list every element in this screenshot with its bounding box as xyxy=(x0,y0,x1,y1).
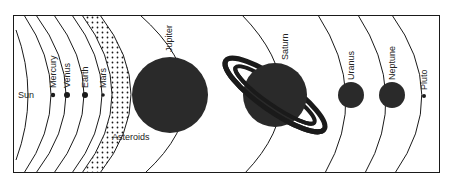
planet-earth xyxy=(82,92,88,98)
label-venus: Venus xyxy=(62,62,72,88)
label-pluto: Pluto xyxy=(419,69,429,90)
label-asteroids: Asteroids xyxy=(112,132,150,142)
diagram-frame xyxy=(14,16,440,173)
planet-uranus xyxy=(338,82,364,108)
label-uranus: Uranus xyxy=(346,50,356,80)
planet-pluto xyxy=(422,94,426,98)
label-sun: Sun xyxy=(18,90,34,100)
planet-mars xyxy=(101,93,105,97)
label-earth: Earth xyxy=(80,66,90,88)
label-neptune: Neptune xyxy=(387,46,397,80)
label-saturn: Saturn xyxy=(280,33,290,60)
planet-jupiter xyxy=(132,57,208,133)
planet-neptune xyxy=(379,82,405,108)
planet-mercury xyxy=(51,93,55,97)
label-mercury: Mercury xyxy=(48,55,58,88)
label-mars: Mars xyxy=(98,68,108,88)
solar-system-diagram: Sun Mercury Venus Earth Mars Asteroids J… xyxy=(0,0,453,185)
planet-venus xyxy=(64,92,70,98)
label-jupiter: Jupiter xyxy=(164,25,174,52)
